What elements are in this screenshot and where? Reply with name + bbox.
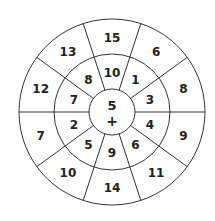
middle-ring-cell: 8 — [84, 73, 92, 87]
outer-ring-cell: 11 — [148, 166, 165, 180]
middle-ring-cell: 2 — [70, 118, 78, 132]
outer-ring-cell: 13 — [60, 45, 77, 59]
number-wheel-puzzle: 101346952781568911141071213 5 + — [0, 0, 215, 221]
middle-ring-cell: 5 — [84, 138, 92, 152]
outer-ring-cell: 8 — [179, 82, 187, 96]
outer-ring-cell: 14 — [104, 181, 121, 195]
wheel-diagram: 101346952781568911141071213 5 + — [0, 0, 215, 221]
outer-ring-cell: 10 — [60, 166, 77, 180]
outer-ring-cell: 15 — [104, 31, 121, 45]
outer-ring-cell: 7 — [36, 129, 44, 143]
outer-ring-cell: 9 — [179, 129, 187, 143]
center-operator: + — [106, 113, 118, 129]
middle-ring-cell: 1 — [131, 73, 139, 87]
middle-ring-cell: 10 — [104, 66, 121, 80]
middle-ring-cell: 9 — [108, 146, 116, 160]
center-value: 5 — [107, 98, 116, 113]
outer-ring-cell: 6 — [152, 45, 160, 59]
middle-ring-cell: 6 — [131, 138, 139, 152]
middle-ring-cell: 7 — [70, 93, 78, 107]
middle-ring-cell: 4 — [146, 118, 154, 132]
outer-ring-cell: 12 — [32, 82, 49, 96]
middle-ring-cell: 3 — [146, 93, 154, 107]
